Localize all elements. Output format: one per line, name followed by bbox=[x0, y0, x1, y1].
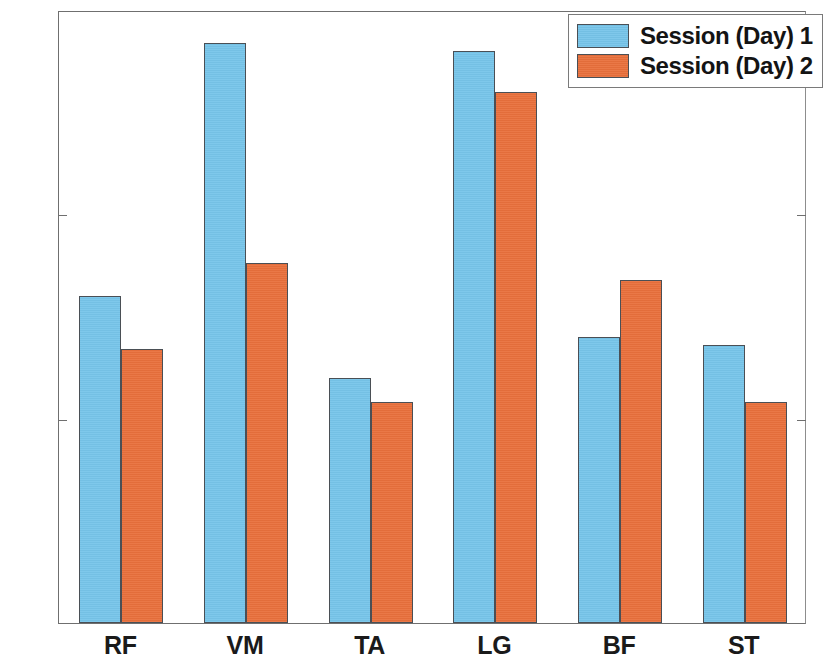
bar-bf-series-1 bbox=[578, 337, 620, 623]
chart-legend: Session (Day) 1 Session (Day) 2 bbox=[568, 14, 823, 88]
legend-label-session-day-1: Session (Day) 1 bbox=[640, 22, 813, 50]
x-axis-tick-label-vm: VM bbox=[227, 631, 264, 660]
bar-lg-series-2 bbox=[495, 92, 537, 623]
bar-ta-series-1 bbox=[329, 378, 371, 623]
bar-rf-series-1 bbox=[79, 296, 121, 623]
x-axis-tick-label-rf: RF bbox=[104, 631, 137, 660]
bar-vm-series-1 bbox=[204, 43, 246, 623]
bar-vm-series-2 bbox=[246, 263, 288, 623]
x-axis-tick-label-lg: LG bbox=[477, 631, 511, 660]
y-axis-tick-mark-right bbox=[797, 420, 806, 421]
y-axis-tick-mark-right bbox=[797, 215, 806, 216]
y-axis-tick-mark bbox=[58, 215, 67, 216]
bar-lg-series-1 bbox=[453, 51, 495, 623]
x-axis-tick-label-bf: BF bbox=[603, 631, 636, 660]
plot-area bbox=[58, 11, 806, 624]
legend-swatch-session-day-1 bbox=[577, 24, 629, 48]
legend-swatch-session-day-2 bbox=[577, 54, 629, 78]
bar-ta-series-2 bbox=[371, 402, 413, 623]
legend-label-session-day-2: Session (Day) 2 bbox=[640, 52, 813, 80]
legend-entry-session-day-1: Session (Day) 1 bbox=[577, 21, 813, 51]
bar-rf-series-2 bbox=[121, 349, 163, 623]
x-axis-tick-label-st: ST bbox=[728, 631, 759, 660]
x-axis-tick-label-ta: TA bbox=[354, 631, 385, 660]
y-axis-tick-mark bbox=[58, 420, 67, 421]
legend-entry-session-day-2: Session (Day) 2 bbox=[577, 51, 813, 81]
bar-st-series-2 bbox=[745, 402, 787, 623]
bar-st-series-1 bbox=[703, 345, 745, 623]
bar-bf-series-2 bbox=[620, 280, 662, 623]
